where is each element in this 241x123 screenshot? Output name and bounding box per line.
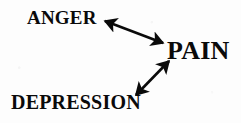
node-label-anger: ANGER	[27, 8, 97, 27]
node-label-pain: PAIN	[167, 38, 229, 64]
node-label-depression: DEPRESSION	[11, 92, 141, 112]
arrow-depression-pain	[136, 61, 169, 95]
arrow-anger-pain	[105, 21, 163, 43]
diagram-canvas: ANGER PAIN DEPRESSION	[0, 0, 241, 123]
